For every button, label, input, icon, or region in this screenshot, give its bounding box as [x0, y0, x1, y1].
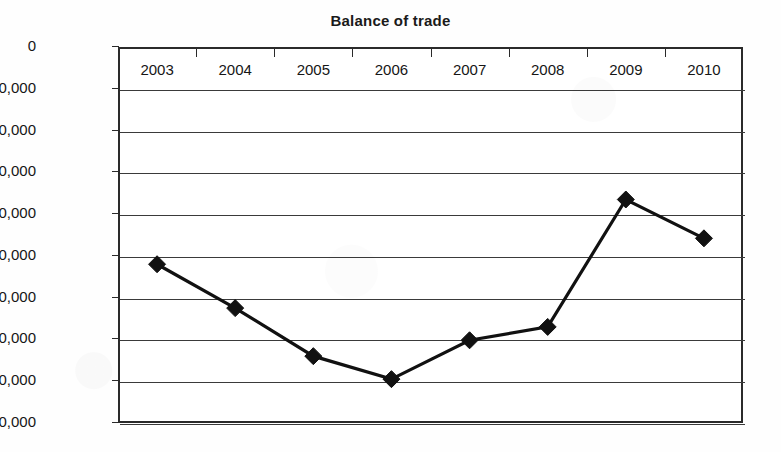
y-axis-tick-label: –700,000	[0, 329, 36, 346]
x-axis-tick	[587, 47, 588, 57]
y-axis-tick	[112, 338, 119, 339]
y-axis-tick	[112, 213, 119, 214]
gridline	[120, 424, 745, 425]
y-axis-tick-label: –600,000	[0, 288, 36, 305]
y-axis-tick-label: –800,000	[0, 371, 36, 388]
data-point-marker	[695, 230, 712, 247]
x-axis-tick	[665, 47, 666, 57]
y-axis-tick	[112, 88, 119, 89]
y-axis-tick	[112, 171, 119, 172]
y-axis-tick	[112, 255, 119, 256]
y-axis-tick-label: –200,000	[0, 121, 36, 138]
chart-screenshot: Balance of trade 20032004200520062007200…	[0, 0, 781, 452]
y-axis-tick-label: –100,000	[0, 79, 36, 96]
y-axis-tick-label: –500,000	[0, 246, 36, 263]
x-axis-tick	[196, 47, 197, 57]
y-axis-tick	[112, 380, 119, 381]
data-point-marker	[617, 191, 634, 208]
y-axis-tick-label: –300,000	[0, 162, 36, 179]
data-point-marker	[461, 332, 478, 349]
y-axis-tick-label: –900,000	[0, 413, 36, 430]
x-axis-tick	[431, 47, 432, 57]
data-point-marker	[227, 300, 244, 317]
y-axis-tick	[112, 46, 119, 47]
y-axis-tick	[112, 130, 119, 131]
y-axis-tick-label: –400,000	[0, 204, 36, 221]
data-series-layer	[118, 47, 743, 423]
y-axis-tick-label: 0	[0, 37, 36, 54]
y-axis-tick	[112, 297, 119, 298]
series-line	[157, 199, 704, 379]
x-axis-tick	[274, 47, 275, 57]
x-axis-tick	[352, 47, 353, 57]
x-axis-tick	[509, 47, 510, 57]
chart-title: Balance of trade	[0, 12, 781, 29]
data-point-marker	[149, 256, 166, 273]
y-axis-tick	[112, 422, 119, 423]
data-point-marker	[383, 371, 400, 388]
data-point-marker	[305, 348, 322, 365]
data-point-marker	[539, 318, 556, 335]
